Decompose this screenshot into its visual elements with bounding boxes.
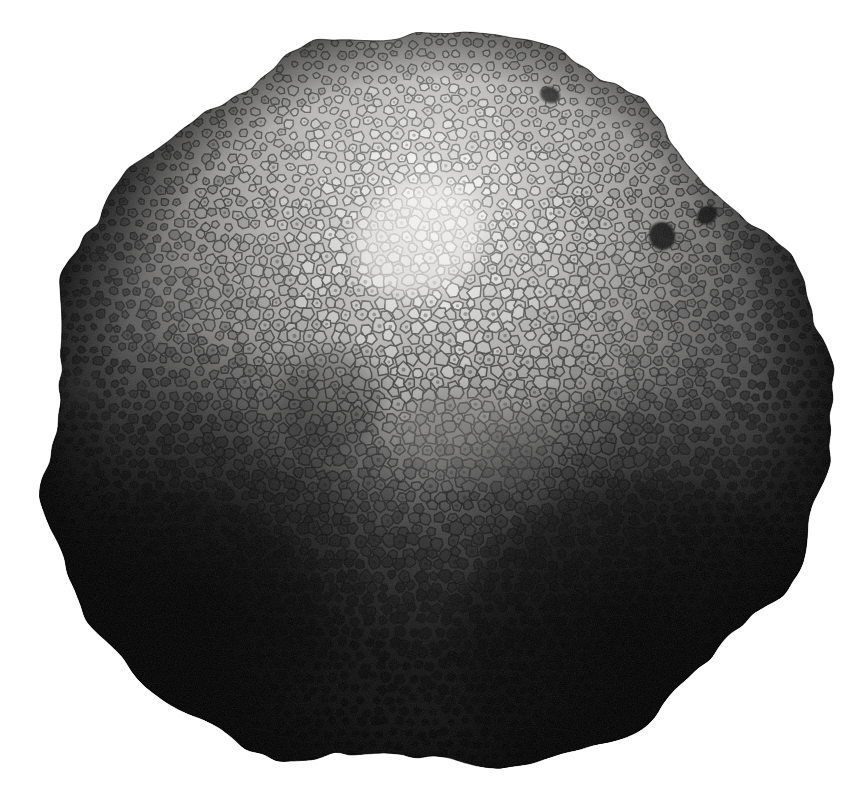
fossil-specimen-image <box>0 0 864 797</box>
figure-plate: fossil-coral-specimen Hemispherical colo… <box>0 0 864 797</box>
